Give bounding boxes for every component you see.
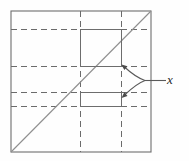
leader-arrow-upper [125, 67, 146, 81]
label-x: x [167, 73, 173, 86]
lower-rectangle [81, 93, 122, 107]
figure-container: x [0, 0, 189, 161]
geometry-diagram [0, 0, 189, 161]
